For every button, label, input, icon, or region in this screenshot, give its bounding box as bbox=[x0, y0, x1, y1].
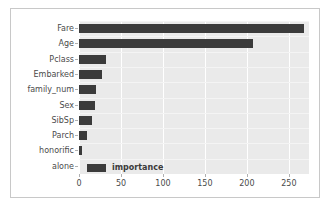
y-tick-mark-SibSp bbox=[75, 120, 78, 121]
y-axis-label-Parch: Parch bbox=[52, 128, 74, 143]
y-axis-label-family_num: family_num bbox=[27, 82, 74, 97]
y-axis-label-Embarked: Embarked bbox=[34, 67, 74, 82]
chart-legend: importance bbox=[87, 163, 163, 172]
x-tick-mark-150 bbox=[205, 174, 206, 177]
bar-Fare bbox=[79, 24, 304, 33]
x-tick-label-250: 250 bbox=[281, 179, 296, 188]
y-tick-mark-Pclass bbox=[75, 59, 78, 60]
bar-honorific bbox=[79, 146, 82, 155]
y-axis-label-SibSp: SibSp bbox=[51, 113, 74, 128]
x-tick-mark-50 bbox=[121, 174, 122, 177]
bar-family_num bbox=[79, 85, 96, 94]
figure-panel: FareAgePclassEmbarkedfamily_numSexSibSpP… bbox=[10, 8, 320, 198]
bar-Parch bbox=[79, 131, 87, 140]
gridline-y-Pclass bbox=[79, 52, 309, 53]
y-axis-label-Fare: Fare bbox=[57, 21, 74, 36]
gridline-y-Parch bbox=[79, 128, 309, 129]
gridline-y-honorific bbox=[79, 143, 309, 144]
gridline-y-SibSp bbox=[79, 113, 309, 114]
x-tick-mark-250 bbox=[289, 174, 290, 177]
x-tick-label-0: 0 bbox=[76, 179, 81, 188]
legend-label-importance: importance bbox=[112, 163, 163, 172]
bar-Age bbox=[79, 39, 253, 48]
x-tick-label-150: 150 bbox=[197, 179, 212, 188]
y-tick-mark-Sex bbox=[75, 105, 78, 106]
y-axis-label-Sex: Sex bbox=[59, 98, 74, 113]
x-tick-mark-200 bbox=[247, 174, 248, 177]
bar-Sex bbox=[79, 101, 95, 110]
y-axis-label-alone: alone bbox=[52, 159, 74, 174]
y-tick-mark-honorific bbox=[75, 150, 78, 151]
y-tick-mark-alone bbox=[75, 166, 78, 167]
y-tick-mark-Parch bbox=[75, 135, 78, 136]
bar-Embarked bbox=[79, 70, 102, 79]
x-tick-mark-0 bbox=[79, 174, 80, 177]
gridline-y-Sex bbox=[79, 98, 309, 99]
x-tick-label-50: 50 bbox=[116, 179, 126, 188]
x-tick-mark-100 bbox=[163, 174, 164, 177]
x-tick-label-200: 200 bbox=[239, 179, 254, 188]
bar-Pclass bbox=[79, 55, 106, 64]
gridline-y-alone bbox=[79, 159, 309, 160]
gridline-y-Fare bbox=[79, 21, 309, 22]
bar-SibSp bbox=[79, 116, 92, 125]
x-tick-label-100: 100 bbox=[155, 179, 170, 188]
y-tick-mark-family_num bbox=[75, 89, 78, 90]
legend-swatch-importance bbox=[87, 164, 106, 172]
gridline-y-Embarked bbox=[79, 67, 309, 68]
y-tick-mark-Fare bbox=[75, 28, 78, 29]
y-axis-label-Pclass: Pclass bbox=[49, 52, 74, 67]
plot-area: FareAgePclassEmbarkedfamily_numSexSibSpP… bbox=[79, 21, 309, 174]
y-axis-label-honorific: honorific bbox=[39, 143, 74, 158]
y-tick-mark-Age bbox=[75, 43, 78, 44]
gridline-y-Age bbox=[79, 36, 309, 37]
y-axis-label-Age: Age bbox=[59, 36, 74, 51]
gridline-y-family_num bbox=[79, 82, 309, 83]
y-tick-mark-Embarked bbox=[75, 74, 78, 75]
